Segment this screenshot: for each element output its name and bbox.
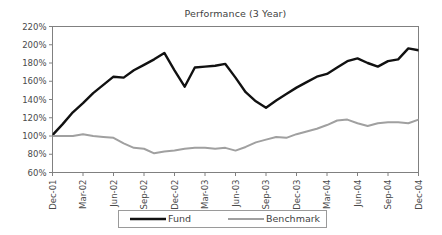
x-tick-label: Mar-04 (322, 180, 332, 209)
x-tick-label: Dec-04 (414, 180, 424, 210)
x-tick-label: Jun-04 (353, 180, 363, 208)
y-tick-label: 60% (28, 168, 47, 178)
legend-label-benchmark: Benchmark (266, 213, 321, 224)
y-axis-tick-labels: 60%80%100%120%140%160%180%200%220% (22, 22, 46, 178)
x-axis-ticks (53, 173, 419, 177)
y-tick-label: 180% (22, 58, 46, 68)
x-tick-label: Mar-03 (200, 180, 210, 209)
x-tick-label: Sep-02 (139, 180, 149, 210)
y-tick-label: 120% (22, 113, 46, 123)
x-tick-label: Dec-02 (170, 180, 180, 210)
y-tick-label: 100% (22, 131, 46, 141)
x-tick-label: Mar-02 (78, 180, 88, 209)
chart-plot-area: 60%80%100%120%140%160%180%200%220% Dec-0… (0, 0, 442, 235)
legend-label-fund: Fund (168, 213, 191, 224)
y-tick-label: 80% (28, 149, 47, 159)
y-axis-ticks (49, 27, 53, 173)
x-tick-label: Jun-02 (109, 180, 119, 208)
x-tick-label: Sep-03 (261, 180, 271, 210)
y-tick-label: 200% (22, 40, 46, 50)
y-tick-label: 160% (22, 76, 46, 86)
x-tick-label: Jun-03 (231, 180, 241, 208)
y-tick-label: 220% (22, 22, 46, 32)
x-tick-label: Sep-04 (383, 180, 393, 210)
x-tick-label: Dec-03 (292, 180, 302, 210)
y-tick-label: 140% (22, 95, 46, 105)
x-tick-label: Dec-01 (48, 180, 58, 210)
performance-chart: Performance (3 Year) 60%80%100%120%140%1… (0, 0, 442, 235)
x-axis-tick-labels: Dec-01Mar-02Jun-02Sep-02Dec-02Mar-03Jun-… (48, 180, 424, 210)
chart-legend: FundBenchmark (119, 211, 327, 228)
